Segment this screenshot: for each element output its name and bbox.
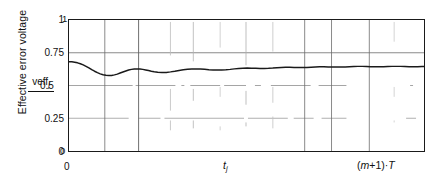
x-tick-label-mid: tj xyxy=(223,160,228,173)
y-tick-label-1: 1 xyxy=(30,15,64,25)
y-tick-label-075: 0.75 xyxy=(30,48,64,58)
x-tick-right-plus1: +1)· xyxy=(369,159,388,171)
y-tick-label-1-duplicate: 1 xyxy=(62,14,67,24)
x-tick-right-T: T xyxy=(388,159,394,171)
figure-container: Effective error voltage veffj 1 0.75 0.5… xyxy=(0,0,437,193)
x-tick-label-mid-subscript: j xyxy=(226,164,228,173)
data-series-line xyxy=(69,20,424,151)
plot-area xyxy=(68,19,425,152)
x-tick-label-left: 0 xyxy=(64,162,70,172)
x-tick-right-m: m xyxy=(361,159,370,171)
x-tick-label-right: (m+1)·T xyxy=(357,160,395,171)
series-path xyxy=(69,62,424,76)
y-tick-label-05: 0.5 xyxy=(40,81,54,91)
y-tick-label-025: 0.25 xyxy=(30,114,64,124)
x-axis-tick-labels: 0 tj (m+1)·T xyxy=(0,155,437,185)
